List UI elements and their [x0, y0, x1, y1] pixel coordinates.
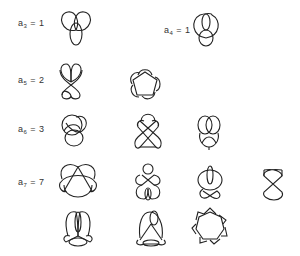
label-a3: a3 = 1 — [18, 18, 45, 29]
knot-6-1-icon — [58, 113, 90, 149]
figure-eight-knot-icon — [190, 12, 222, 48]
label-a6: a6 = 3 — [18, 124, 45, 135]
trefoil-knot-icon — [58, 8, 94, 46]
label-a7: a7 = 7 — [18, 177, 45, 188]
knot-7-d-icon — [260, 166, 286, 202]
knot-7-f-icon — [134, 208, 168, 248]
knot-7-a-icon — [58, 163, 98, 199]
knot-5-2-icon — [58, 62, 84, 102]
septafoil-knot-icon — [190, 206, 230, 246]
knot-7-e-icon — [62, 208, 94, 248]
knot-6-2-icon — [134, 113, 162, 151]
cinquefoil-knot-icon — [128, 67, 162, 101]
label-a4: a4 = 1 — [164, 25, 191, 36]
knot-6-3-icon — [196, 115, 222, 151]
knot-7-c-icon — [195, 165, 225, 203]
knot-7-b-icon — [134, 163, 162, 203]
label-a5: a5 = 2 — [18, 75, 45, 86]
knot-table-figure: a3 = 1 a4 = 1 a5 = 2 a6 = 3 a7 = 7 — [0, 0, 300, 256]
